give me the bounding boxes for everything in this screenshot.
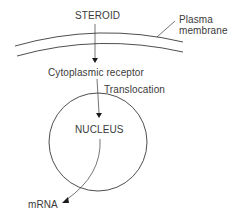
steroid-label: STEROID bbox=[75, 10, 120, 21]
mrna-label: mRNA bbox=[28, 199, 58, 210]
plasma-membrane-label-line1: Plasma bbox=[179, 14, 213, 25]
translocation-arrow-line bbox=[97, 79, 99, 113]
plasma-membrane-inner bbox=[17, 43, 183, 56]
translocation-arrowhead bbox=[96, 113, 102, 118]
translocation-label: Translocation bbox=[104, 84, 165, 95]
nucleus-label: NUCLEUS bbox=[75, 124, 124, 135]
plasma-membrane-leader bbox=[157, 21, 175, 37]
steroid-arrowhead bbox=[92, 58, 98, 63]
cytoplasmic-receptor-label: Cytoplasmic receptor bbox=[48, 67, 144, 78]
nucleus-circle bbox=[49, 93, 147, 191]
plasma-membrane-outer bbox=[15, 33, 183, 46]
mrna-arrowhead bbox=[62, 197, 69, 203]
plasma-membrane-label-line2: membrane bbox=[179, 25, 228, 36]
